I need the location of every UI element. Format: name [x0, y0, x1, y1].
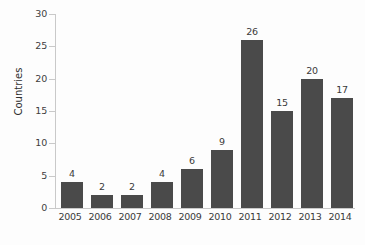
y-axis-tick-mark — [49, 111, 55, 112]
bar-item: 2 — [87, 14, 117, 208]
y-axis-tick-mark — [49, 208, 55, 209]
bar-item: 9 — [207, 14, 237, 208]
x-axis-tick-label: 2012 — [263, 212, 297, 222]
x-axis-tick-label: 2014 — [323, 212, 357, 222]
bar-item: 2 — [117, 14, 147, 208]
bar — [331, 98, 353, 208]
bar-item: 17 — [327, 14, 357, 208]
bar-value-label: 4 — [147, 169, 177, 179]
bar-item: 20 — [297, 14, 327, 208]
bar — [61, 182, 83, 208]
bar-value-label: 4 — [57, 169, 87, 179]
y-axis-tick-label: 5 — [21, 171, 47, 181]
y-axis-title: Countries — [13, 52, 24, 132]
bar-item: 6 — [177, 14, 207, 208]
x-axis-tick-label: 2008 — [143, 212, 177, 222]
bar-chart: Countries 051015202530 42246926152017 20… — [0, 0, 365, 245]
x-axis-tick-label: 2013 — [293, 212, 327, 222]
y-axis-tick-label: 0 — [21, 203, 47, 213]
bar — [241, 40, 263, 208]
x-axis-tick-label: 2006 — [83, 212, 117, 222]
y-axis-tick-mark — [49, 14, 55, 15]
x-axis-tick-label: 2009 — [173, 212, 207, 222]
y-axis-tick-mark — [49, 143, 55, 144]
bar-item: 15 — [267, 14, 297, 208]
bar — [121, 195, 143, 208]
bar-value-label: 26 — [237, 27, 267, 37]
y-axis-line — [55, 14, 56, 208]
bar — [211, 150, 233, 208]
x-axis-tick-label: 2005 — [53, 212, 87, 222]
bar — [271, 111, 293, 208]
bar-value-label: 2 — [87, 182, 117, 192]
x-axis-tick-label: 2011 — [233, 212, 267, 222]
bar-value-label: 6 — [177, 156, 207, 166]
y-axis-tick-mark — [49, 79, 55, 80]
bar-value-label: 20 — [297, 66, 327, 76]
y-axis-tick-label: 30 — [21, 9, 47, 19]
y-axis-tick-mark — [49, 176, 55, 177]
y-axis-tick-label: 25 — [21, 41, 47, 51]
bar-value-label: 2 — [117, 182, 147, 192]
bar-item: 26 — [237, 14, 267, 208]
y-axis-tick-label: 15 — [21, 106, 47, 116]
y-axis-tick-label: 10 — [21, 138, 47, 148]
bar — [301, 79, 323, 208]
bar — [181, 169, 203, 208]
bar — [151, 182, 173, 208]
bar-item: 4 — [147, 14, 177, 208]
bar — [91, 195, 113, 208]
x-axis-tick-label: 2007 — [113, 212, 147, 222]
bar-value-label: 15 — [267, 98, 297, 108]
bar-value-label: 9 — [207, 137, 237, 147]
x-axis-tick-label: 2010 — [203, 212, 237, 222]
bar-item: 4 — [57, 14, 87, 208]
x-axis-line — [55, 208, 355, 209]
y-axis-tick-label: 20 — [21, 74, 47, 84]
y-axis-tick-mark — [49, 46, 55, 47]
bar-value-label: 17 — [327, 85, 357, 95]
